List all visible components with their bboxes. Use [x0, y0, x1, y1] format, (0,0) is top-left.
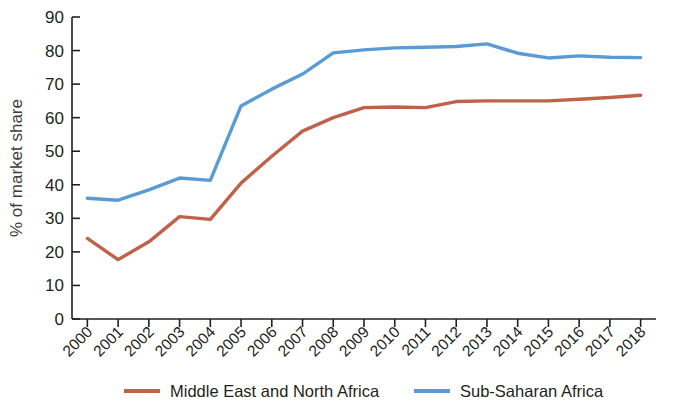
data-series-group: [87, 44, 640, 260]
x-tick-label: 2005: [213, 323, 249, 359]
x-tick-label: 2009: [336, 323, 372, 359]
y-axis-title-label: % of market share: [7, 99, 26, 237]
y-tick-label: 70: [45, 75, 64, 94]
line-chart-svg: % of market share 0102030405060708090 20…: [0, 0, 673, 403]
x-tick-label: 2011: [398, 323, 434, 359]
legend-label: Middle East and North Africa: [170, 382, 380, 400]
x-tick-label: 2000: [59, 323, 96, 360]
y-tick-label: 40: [45, 176, 64, 195]
x-tick-label: 2010: [366, 323, 403, 360]
y-tick-label: 80: [45, 42, 64, 61]
axis-lines: [72, 17, 656, 319]
x-tick-label: 2001: [90, 323, 126, 359]
x-tick-label: 2014: [489, 323, 526, 360]
x-tick-label: 2017: [582, 323, 618, 359]
y-tick-label: 20: [45, 243, 64, 262]
x-tick-label: 2007: [274, 323, 310, 359]
y-tick-label: 90: [45, 8, 64, 27]
x-tick-label: 2002: [121, 323, 157, 359]
x-tick-label: 2015: [520, 323, 556, 359]
series-line-sub-saharan-africa: [87, 44, 640, 200]
x-tick-label: 2013: [459, 323, 495, 359]
x-tick-label: 2006: [244, 323, 280, 359]
x-tick-label: 2008: [305, 323, 341, 359]
y-tick-label: 50: [45, 142, 64, 161]
x-axis-ticks: 2000200120022003200420052006200720082009…: [59, 319, 649, 360]
x-tick-label: 2003: [151, 323, 187, 359]
x-tick-label: 2016: [551, 323, 587, 359]
y-tick-label: 10: [45, 276, 64, 295]
y-tick-label: 0: [55, 310, 64, 329]
y-axis-ticks: 0102030405060708090: [45, 8, 80, 329]
series-line-middle-east-and-north-africa: [87, 95, 640, 259]
legend-label: Sub-Saharan Africa: [460, 382, 604, 400]
x-tick-label: 2004: [182, 323, 219, 360]
y-tick-label: 60: [45, 109, 64, 128]
y-tick-label: 30: [45, 209, 64, 228]
y-axis-title: % of market share: [7, 99, 26, 237]
x-tick-label: 2018: [612, 323, 648, 359]
x-tick-label: 2012: [428, 323, 464, 359]
chart-legend: Middle East and North AfricaSub-Saharan …: [124, 382, 604, 400]
chart-figure: % of market share 0102030405060708090 20…: [0, 0, 673, 403]
